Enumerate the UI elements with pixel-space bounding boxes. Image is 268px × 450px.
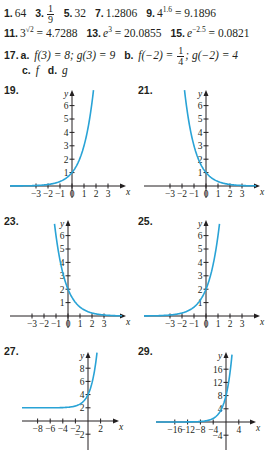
answer-value: ; g(−2) = 4 [185,49,238,61]
x-tick-label: 2 [228,319,233,329]
answer-value: f [36,64,39,76]
part-label: c. [22,64,31,76]
y-tick-label: 4 [80,390,85,400]
x-axis-label: x [125,317,131,327]
part-label: d. [48,64,57,76]
y-tick-label: 1 [60,298,65,308]
x-tick-label: −3 [27,319,37,329]
y-tick-label: 6 [64,101,69,111]
y-tick-label: 5 [198,114,203,124]
function-curve [10,90,94,186]
answer-value: = 0.0821 [206,27,250,39]
x-tick-label: −2 [177,189,187,199]
x-tick-label: −8 [33,424,43,434]
x-tick-label: 1 [82,189,87,199]
x-axis-label: x [255,423,261,433]
exponent: 1.6 [163,5,172,14]
y-tick-label: −2 [74,430,84,440]
x-tick-label: 3 [240,189,245,199]
x-tick-label: 4 [236,425,241,435]
x-tick-label: −6 [45,424,55,434]
x-axis-label: x [125,187,131,197]
fraction: 19 [47,4,54,25]
y-axis-arrow-icon [224,352,229,358]
graph-23: xy−3−2−10123123456 [0,216,134,328]
x-tick-label: 2 [98,424,103,434]
exponent: −2.5 [192,25,206,34]
function-curve [185,90,257,186]
problem-number: 3. [35,7,44,19]
x-tick-label: −1 [51,319,61,329]
x-tick-label: 0 [70,189,75,199]
x-tick-label: 2 [90,319,95,329]
problem-number: 7. [95,7,104,19]
problem-number: 9. [146,7,155,19]
problem-number: 5. [64,7,73,19]
x-tick-label: −1 [189,319,199,329]
y-tick-label: 1 [198,168,203,178]
y-tick-label: 12 [213,378,223,388]
answer-value: f(−2) = [138,49,176,61]
problem-number: 15. [170,27,185,39]
y-axis-arrow-icon [204,220,209,226]
x-tick-label: −1 [55,189,65,199]
y-tick-label: 6 [198,231,203,241]
x-tick-label: −2 [39,319,49,329]
x-tick-label: −3 [165,319,175,329]
x-axis-label: x [259,317,265,327]
x-tick-label: −3 [31,189,41,199]
y-axis-label: y [63,89,69,99]
y-tick-label: 2 [198,285,203,295]
x-tick-label: 0 [204,319,209,329]
y-axis-label: y [79,351,85,361]
y-tick-label: 3 [198,141,203,151]
graph-25: xy−3−2−10123123456 [134,216,268,328]
answer-line-4: c. f d. g [22,63,68,77]
part-label: b. [124,49,133,61]
exponent: √2 [26,25,34,34]
y-tick-label: 8 [218,391,223,401]
y-tick-label: 4 [198,128,203,138]
x-tick-label: 2 [94,189,99,199]
x-tick-label: 3 [106,189,111,199]
x-tick-label: −4 [58,424,68,434]
problem-number: 17. [4,49,19,61]
graph-29: xy−16−12−8−44−4481216 [134,350,268,450]
y-tick-label: 4 [198,258,203,268]
x-tick-label: 1 [216,319,221,329]
y-tick-label: 4 [64,128,69,138]
x-tick-label: −2 [177,319,187,329]
y-tick-label: 5 [60,244,65,254]
x-tick-label: 1 [216,189,221,199]
answer-value: 32 [75,7,87,19]
y-tick-label: 3 [198,271,203,281]
answer-value: = 9.1896 [172,7,216,19]
x-tick-label: −3 [165,189,175,199]
y-axis-arrow-icon [86,352,91,358]
y-axis-label: y [59,219,65,229]
y-tick-label: 5 [64,114,69,124]
answer-value: = 20.0855 [112,27,162,39]
y-tick-label: 5 [198,244,203,254]
function-curve [144,224,220,316]
answer-value: f(3) = 8; g(3) = 9 [34,49,115,61]
graph-19: xy−3−2−10123123456 [0,86,134,198]
answer-value: = 4.7288 [34,27,78,39]
answer-line-1: 1.64 3.19 5.32 7.1.2806 9.41.6 = 9.1896 [4,4,216,25]
y-tick-label: 2 [64,155,69,165]
y-tick-label: 6 [80,377,85,387]
y-tick-label: 16 [213,365,223,375]
y-tick-label: −4 [212,431,222,441]
answer-line-2: 11.3√2 = 4.7288 13.e3 = 20.0855 15.e−2.5… [4,26,250,40]
part-label: a. [21,49,30,61]
function-curve [22,353,97,408]
graph-27: xy−8−6−4−22−22468 [0,350,134,450]
y-axis-label: y [197,89,203,99]
problem-number: 11. [4,27,18,39]
x-tick-label: −2 [43,189,53,199]
answer-value: g [62,64,68,76]
y-tick-label: 2 [60,285,65,295]
function-curve [55,224,123,316]
x-tick-label: −1 [189,189,199,199]
x-axis-label: x [259,187,265,197]
